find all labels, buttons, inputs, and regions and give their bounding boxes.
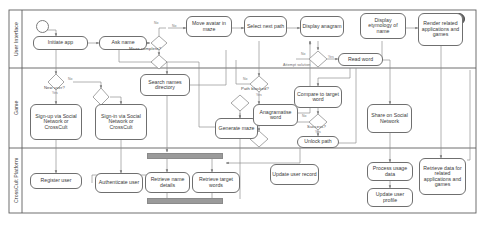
activity-process-usage-data[interactable]: Process usage data bbox=[367, 162, 413, 181]
edge-label-yes-path-blocked: Yes bbox=[256, 93, 262, 97]
activity-display-anagram-label: Display anagram bbox=[302, 24, 342, 29]
activity-anagramatise-word-label: Anagramatise word bbox=[255, 110, 296, 121]
join-bar-bottom bbox=[147, 198, 223, 204]
activity-authenticate-user[interactable]: Authenticate user bbox=[95, 173, 143, 193]
activity-register-user[interactable]: Register user bbox=[30, 173, 82, 189]
activity-initiate-app[interactable]: Initiate app bbox=[33, 36, 88, 50]
decision-maze-complete-2 bbox=[151, 55, 167, 69]
activity-read-word-label: Read word bbox=[340, 57, 381, 62]
activity-generate-maze[interactable]: Generate maze bbox=[215, 118, 258, 139]
activity-update-user-profile[interactable]: Update user profile bbox=[367, 188, 413, 207]
activity-display-etymology[interactable]: Display etymology of name bbox=[360, 13, 406, 39]
decision-new-user-label: New user? bbox=[44, 85, 65, 90]
activity-share-on-social-network[interactable]: Share on Social Network bbox=[367, 104, 412, 133]
activity-register-user-label: Register user bbox=[32, 178, 80, 183]
activity-sign-in[interactable]: Sign-in via Social Network or CrossCult bbox=[95, 104, 147, 140]
activity-retrieve-name-details[interactable]: Retrieve name details bbox=[145, 172, 190, 193]
edge-label-no-path-blocked: No bbox=[243, 77, 248, 81]
activity-render-related-applications-label: Render related applications and games bbox=[420, 21, 461, 37]
activity-retrieve-target-words-label: Retrieve target words bbox=[194, 177, 238, 188]
lane-label-game: Game bbox=[9, 68, 22, 148]
activity-initiate-app-label: Initiate app bbox=[35, 40, 86, 45]
activity-share-on-social-network-label: Share on Social Network bbox=[369, 113, 410, 124]
edge-label-yes-new-user: Yes bbox=[52, 91, 58, 95]
activity-anagramatise-word[interactable]: Anagramatise word bbox=[253, 104, 298, 126]
start-node[interactable] bbox=[36, 20, 49, 33]
activity-retrieve-name-details-label: Retrieve name details bbox=[147, 177, 188, 188]
decision-path-blocked-label: Path blocked? bbox=[241, 86, 269, 91]
decision-success-label: Success? bbox=[307, 124, 326, 129]
activity-authenticate-user-label: Authenticate user bbox=[97, 180, 141, 185]
decision-attempt-solution-label: Attempt solution bbox=[283, 63, 310, 67]
activity-update-user-record-label: Update user record bbox=[272, 172, 317, 177]
activity-move-avatar-in-maze[interactable]: Move avatar in maze bbox=[186, 16, 232, 37]
activity-compare-to-target-word-label: Compare to target word bbox=[296, 92, 340, 103]
activity-unlock-path-label: Unlock path bbox=[299, 139, 337, 144]
activity-generate-maze-label: Generate maze bbox=[217, 126, 256, 131]
activity-update-user-record[interactable]: Update user record bbox=[270, 164, 319, 185]
activity-sign-up[interactable]: Sign-up via Social Network or CrossCult bbox=[30, 104, 82, 140]
decision-attempt-solution bbox=[309, 51, 327, 67]
activity-read-word[interactable]: Read word bbox=[338, 53, 383, 66]
edge-label-no-maze-side: No bbox=[172, 24, 177, 28]
fork-bar-top bbox=[147, 153, 223, 159]
edge-label-no-success: No bbox=[302, 114, 307, 118]
decision-new-user-2 bbox=[93, 88, 109, 105]
activity-display-etymology-label: Display etymology of name bbox=[362, 18, 404, 34]
activity-display-anagram[interactable]: Display anagram bbox=[300, 16, 344, 37]
activity-select-next-path[interactable]: Select next path bbox=[244, 16, 287, 37]
activity-update-user-profile-label: Update user profile bbox=[369, 192, 411, 203]
activity-ask-name-label: Ask name bbox=[101, 40, 145, 45]
lane-label-user-interface: User Interface bbox=[9, 10, 22, 68]
edge-label-no-maze-top: No bbox=[154, 21, 159, 25]
lane-label-crosscult-platform: CrossCult Platform bbox=[9, 148, 22, 213]
decision-maze-complete-label: Maze complete? bbox=[129, 46, 161, 51]
activity-compare-to-target-word[interactable]: Compare to target word bbox=[294, 86, 342, 108]
diagram-canvas: User Interface Game CrossCult Platform I… bbox=[0, 0, 486, 225]
edge-label-no-attempt: No bbox=[301, 52, 306, 56]
activity-select-next-path-label: Select next path bbox=[246, 24, 285, 29]
activity-unlock-path[interactable]: Unlock path bbox=[297, 136, 339, 148]
activity-move-avatar-in-maze-label: Move avatar in maze bbox=[188, 21, 230, 32]
edge-label-no-new-user: No bbox=[68, 77, 73, 81]
activity-sign-in-label: Sign-in via Social Network or CrossCult bbox=[97, 114, 145, 130]
activity-process-usage-data-label: Process usage data bbox=[369, 166, 411, 177]
activity-render-related-applications[interactable]: Render related applications and games bbox=[418, 13, 463, 46]
activity-search-names-directory-label: Search names directory bbox=[142, 80, 188, 91]
activity-sign-up-label: Sign-up via Social Network or CrossCult bbox=[32, 114, 80, 130]
activity-retrieve-target-words[interactable]: Retrieve target words bbox=[192, 172, 240, 193]
activity-retrieve-related-data[interactable]: Retrieve data for related applications a… bbox=[419, 158, 466, 195]
edge-label-yes-attempt: Yes bbox=[328, 55, 334, 59]
activity-retrieve-related-data-label: Retrieve data for related applications a… bbox=[421, 166, 464, 188]
decision-maze-join bbox=[231, 95, 249, 111]
activity-search-names-directory[interactable]: Search names directory bbox=[140, 74, 190, 96]
edge-label-yes-success: Yes bbox=[315, 130, 321, 134]
